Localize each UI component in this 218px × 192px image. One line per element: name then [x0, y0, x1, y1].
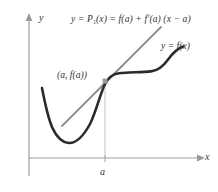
tangency-point-marker	[103, 79, 108, 84]
x-tick-label-a: a	[100, 167, 105, 177]
x-axis-arrowhead	[197, 155, 205, 162]
x-axis-label: x	[205, 152, 209, 162]
figure-canvas	[0, 0, 218, 192]
tangent-equation-suffix: (x) = f(a) + f′(a) (x − a)	[96, 13, 191, 24]
y-axis-arrowhead	[26, 13, 33, 21]
x-axis	[29, 155, 205, 162]
curve-equation-label: y = f(x)	[161, 41, 190, 51]
tangent-equation-label: y = P1(x) = f(a) + f′(a) (x − a)	[71, 14, 191, 26]
y-axis	[26, 13, 33, 176]
linear-approximation-figure: y = P1(x) = f(a) + f′(a) (x − a) y = f(x…	[0, 0, 218, 192]
tangent-point-label: (a, f(a))	[57, 70, 87, 80]
tangent-equation-prefix: y = P	[71, 13, 93, 24]
y-axis-label: y	[39, 13, 43, 23]
function-curve	[42, 47, 183, 144]
